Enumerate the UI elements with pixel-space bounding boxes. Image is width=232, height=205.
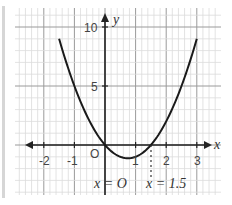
x-tick-label-1: 1 bbox=[132, 154, 139, 168]
y-tick-label-10: 10 bbox=[84, 21, 98, 35]
x-axis-left-arrow-icon bbox=[25, 141, 33, 149]
y-axis-arrow-icon bbox=[101, 13, 109, 22]
y-axis bbox=[101, 13, 109, 195]
y-axis-label: y bbox=[111, 12, 120, 27]
axis-ticks bbox=[44, 27, 197, 148]
x-tick-label-neg1: -1 bbox=[67, 154, 78, 168]
x-axis bbox=[25, 141, 212, 149]
x-tick-label-neg2: -2 bbox=[39, 154, 50, 168]
x-axis-label: x bbox=[213, 137, 221, 152]
root-annotation-right: x = 1.5 bbox=[145, 176, 186, 191]
root-annotation-left: x = O bbox=[93, 176, 127, 191]
x-axis-right-arrow-icon bbox=[204, 141, 212, 149]
x-tick-label-2: 2 bbox=[163, 154, 170, 168]
origin-label: O bbox=[90, 147, 99, 161]
graph: y x O -2 -1 1 2 3 5 10 x = O x = 1.5 bbox=[0, 0, 232, 205]
y-tick-label-5: 5 bbox=[91, 80, 98, 94]
parabola-curve bbox=[59, 39, 197, 158]
x-tick-label-3: 3 bbox=[194, 154, 201, 168]
